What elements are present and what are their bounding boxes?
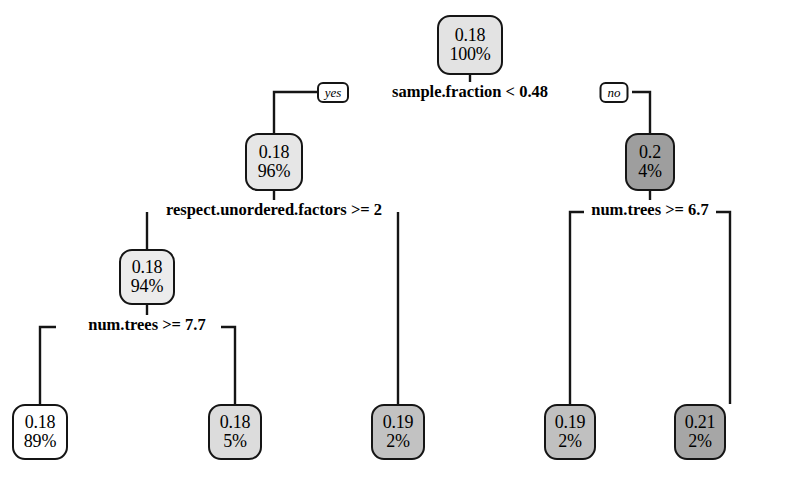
tree-leaf-5[interactable]: 0.18 5% <box>208 404 262 460</box>
split-label-respect-unordered-factors: respect.unordered.factors >= 2 <box>163 200 385 220</box>
node-percent: 89% <box>24 432 56 451</box>
node-value: 0.18 <box>455 26 486 45</box>
edge-n3l-to-leaf1 <box>40 327 56 404</box>
node-value: 0.18 <box>132 258 163 277</box>
node-value: 0.18 <box>220 413 251 432</box>
edge-n2r-to-leaf4 <box>570 212 584 404</box>
branch-badge-no[interactable]: no <box>600 82 629 103</box>
edge-n3l-to-leaf2 <box>221 327 235 404</box>
branch-badge-yes[interactable]: yes <box>317 82 349 103</box>
tree-node-root[interactable]: 0.18 100% <box>437 15 503 75</box>
decision-tree-diagram: 0.18 100% sample.fraction < 0.48 yes no … <box>0 0 788 490</box>
node-percent: 94% <box>131 277 163 296</box>
node-value: 0.19 <box>383 413 414 432</box>
tree-leaf-2-right[interactable]: 0.19 2% <box>544 404 596 460</box>
node-percent: 4% <box>638 162 662 181</box>
edge-root-to-left <box>274 92 318 133</box>
tree-leaf-2-mid[interactable]: 0.19 2% <box>371 404 425 460</box>
node-percent: 100% <box>449 45 490 64</box>
tree-node-left-94[interactable]: 0.18 94% <box>119 249 175 305</box>
node-percent: 5% <box>223 432 247 451</box>
split-label-num-trees-77: num.trees >= 7.7 <box>85 315 209 335</box>
node-value: 0.18 <box>25 413 56 432</box>
node-percent: 2% <box>558 432 582 451</box>
node-value: 0.21 <box>685 413 716 432</box>
tree-node-right-4[interactable]: 0.2 4% <box>625 133 675 191</box>
tree-leaf-89[interactable]: 0.18 89% <box>12 404 68 460</box>
node-value: 0.18 <box>259 143 290 162</box>
node-value: 0.19 <box>555 413 586 432</box>
split-label-sample-fraction: sample.fraction < 0.48 <box>389 82 551 102</box>
tree-node-left-96[interactable]: 0.18 96% <box>245 133 303 191</box>
node-value: 0.2 <box>639 143 661 162</box>
edge-root-to-right <box>632 92 650 133</box>
edge-n2r-to-leaf5 <box>716 212 730 404</box>
tree-leaf-2-far-right[interactable]: 0.21 2% <box>674 404 726 460</box>
node-percent: 96% <box>258 162 290 181</box>
split-label-num-trees-67: num.trees >= 6.7 <box>588 200 712 220</box>
node-percent: 2% <box>386 432 410 451</box>
node-percent: 2% <box>688 432 712 451</box>
